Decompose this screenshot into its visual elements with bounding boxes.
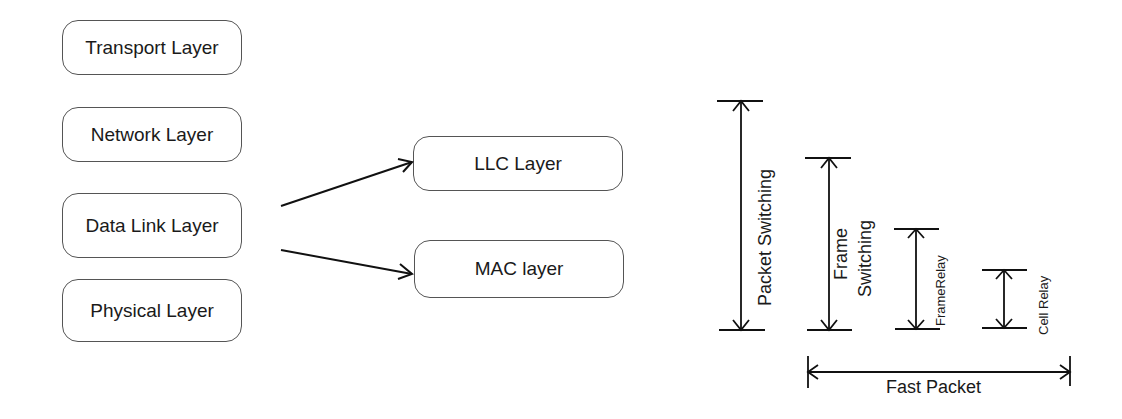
cell-relay-label: Cell Relay xyxy=(1036,276,1051,335)
fast-packet-label: Fast Packet xyxy=(886,377,981,398)
frame-switching-label-line2: Switching xyxy=(855,220,876,297)
arrow-to-llc xyxy=(281,159,412,206)
cell-relay-extent xyxy=(982,270,1027,328)
frame-relay-label: FrameRelay xyxy=(933,255,948,326)
frame-switching-label-line1: Frame xyxy=(831,228,852,280)
arrow-to-mac xyxy=(281,250,412,279)
packet-switching-label: Packet Switching xyxy=(755,169,776,306)
diagram-lines xyxy=(0,0,1122,419)
